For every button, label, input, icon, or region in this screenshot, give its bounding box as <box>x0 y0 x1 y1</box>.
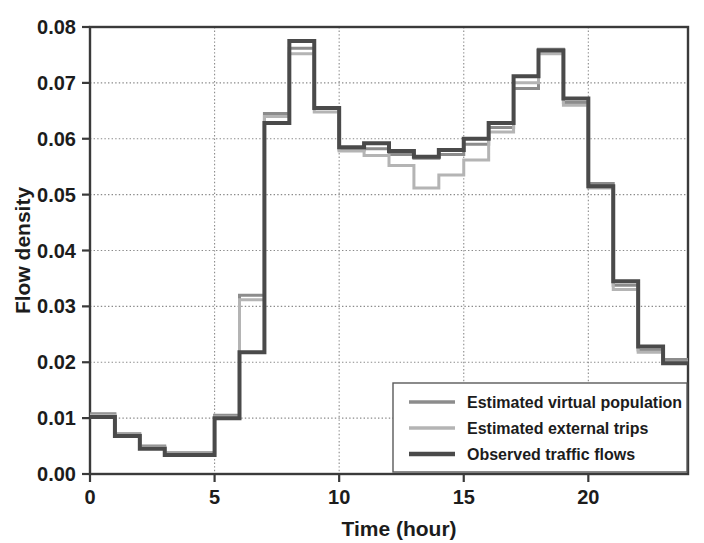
y-axis-title: Flow density <box>11 187 34 315</box>
ytick-label: 0.01 <box>37 407 76 429</box>
ytick-label: 0.07 <box>37 72 76 94</box>
xtick-label: 5 <box>209 486 220 508</box>
ytick-label: 0.06 <box>37 128 76 150</box>
xtick-label: 10 <box>328 486 350 508</box>
xtick-label: 15 <box>453 486 475 508</box>
flow-density-chart: 0.000.010.020.030.040.050.060.070.080510… <box>0 0 704 543</box>
legend-label-2: Estimated external trips <box>467 420 649 437</box>
ytick-label: 0.08 <box>37 16 76 38</box>
x-axis-title: Time (hour) <box>341 517 456 540</box>
chart-legend: Estimated virtual populationEstimated ex… <box>393 383 687 472</box>
legend-label-1: Estimated virtual population <box>467 394 682 411</box>
ytick-label: 0.03 <box>37 295 76 317</box>
chart-figure: 0.000.010.020.030.040.050.060.070.080510… <box>0 0 704 543</box>
legend-label-3: Observed traffic flows <box>467 446 635 463</box>
xtick-label: 0 <box>84 486 95 508</box>
ytick-label: 0.02 <box>37 351 76 373</box>
ytick-label: 0.00 <box>37 463 76 485</box>
xtick-label: 20 <box>577 486 599 508</box>
ytick-label: 0.04 <box>37 240 77 262</box>
ytick-label: 0.05 <box>37 184 76 206</box>
